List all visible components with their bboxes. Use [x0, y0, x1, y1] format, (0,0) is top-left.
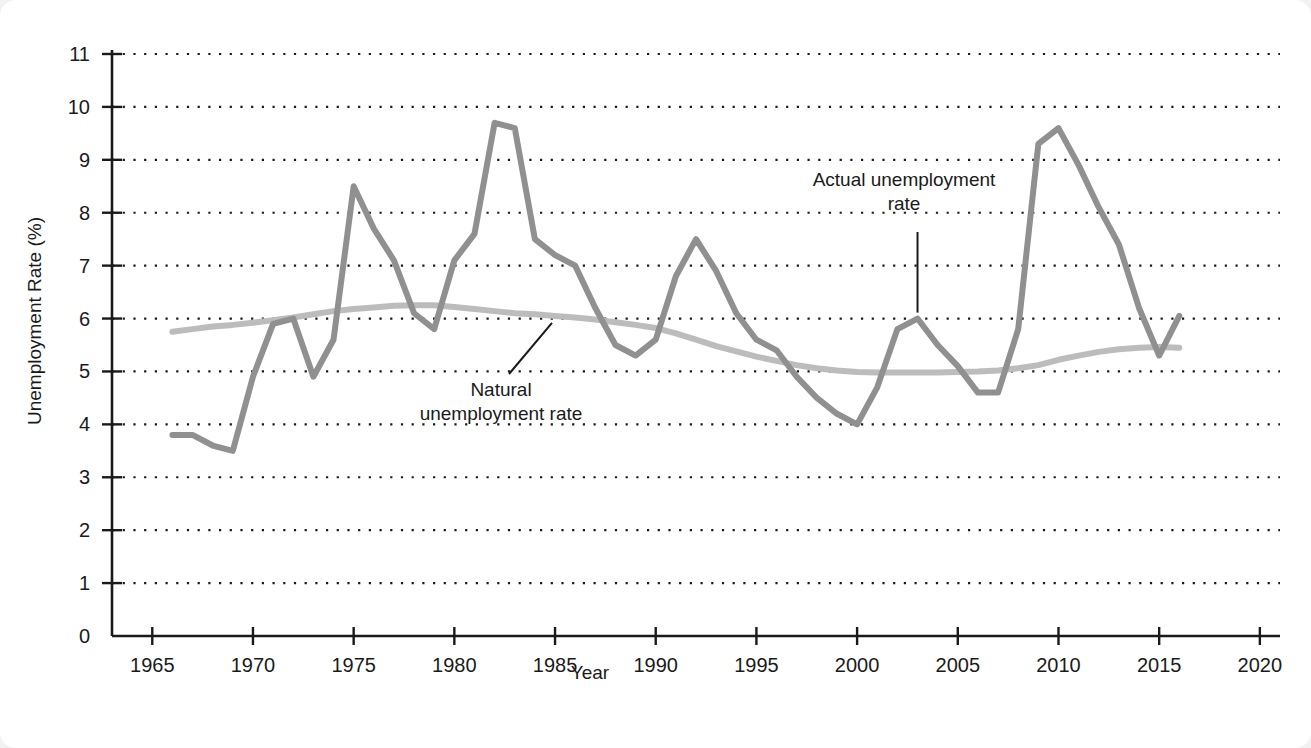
- y-tick-label: 9: [79, 149, 90, 171]
- y-tick-label: 5: [79, 360, 90, 382]
- annotation-actual-unemployment-rate: Actual unemployment rate: [788, 168, 1020, 216]
- y-tick-label: 7: [79, 255, 90, 277]
- y-axis-title: Unemployment Rate (%): [24, 141, 46, 501]
- y-tick-label: 1: [79, 572, 90, 594]
- y-tick-label: 2: [79, 519, 90, 541]
- x-tick-label: 2020: [1238, 654, 1283, 676]
- chart-figure: 0123456789101119651970197519801985199019…: [0, 0, 1311, 748]
- y-axis-ticks: 01234567891011: [68, 43, 122, 647]
- y-tick-label: 4: [79, 413, 90, 435]
- annotation-natural-unemployment-rate: Natural unemployment rate: [378, 378, 624, 426]
- y-tick-label: 0: [79, 625, 90, 647]
- annotation-leader-lines: [509, 232, 918, 374]
- y-tick-label: 6: [79, 308, 90, 330]
- leader-line-natural: [509, 323, 552, 374]
- y-tick-label: 10: [68, 96, 90, 118]
- axes: [112, 50, 1280, 636]
- y-tick-label: 11: [69, 43, 90, 65]
- y-tick-label: 8: [79, 202, 90, 224]
- x-axis-title: Year: [0, 662, 1180, 684]
- series-line-actual: [172, 123, 1179, 451]
- y-tick-label: 3: [79, 466, 90, 488]
- unemployment-line-chart: 0123456789101119651970197519801985199019…: [0, 0, 1311, 748]
